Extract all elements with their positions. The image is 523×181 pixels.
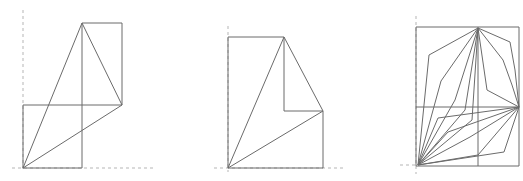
edge-line xyxy=(82,23,122,105)
edge-line xyxy=(23,23,82,168)
edge-line xyxy=(228,111,323,168)
edge-line xyxy=(23,105,122,168)
figure-3 xyxy=(400,16,519,174)
geometric-diagram xyxy=(0,0,523,181)
figure-1 xyxy=(12,10,155,172)
edge-line xyxy=(228,37,284,168)
diagram-canvas xyxy=(0,0,523,181)
figure-2 xyxy=(214,26,346,172)
edge-line xyxy=(284,37,323,111)
edge-line xyxy=(478,28,519,107)
